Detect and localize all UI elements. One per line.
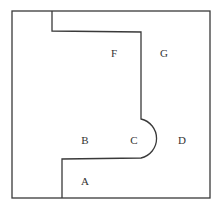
label-d: D [178,134,186,146]
label-f: F [111,47,117,59]
label-a: A [81,175,89,187]
label-g: G [160,47,168,59]
label-c: C [130,134,137,146]
region-diagram: F G B C D A [0,0,223,208]
divider-line [52,11,157,198]
outer-boundary [12,11,210,198]
label-b: B [81,134,88,146]
